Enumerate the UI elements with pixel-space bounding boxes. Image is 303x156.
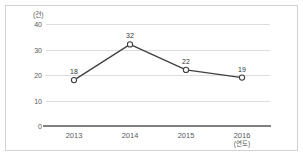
data-label-2015: 22 bbox=[182, 58, 190, 65]
chart-figure: (건) 40 30 20 10 0 18 32 22 19 2013 2014 … bbox=[0, 0, 303, 156]
data-point-2014 bbox=[127, 42, 132, 47]
data-point-2015 bbox=[183, 67, 188, 72]
data-label-2014: 32 bbox=[126, 32, 134, 39]
x-tick-2016: 2016 (연도) bbox=[234, 131, 251, 149]
x-tick-2015: 2015 bbox=[178, 131, 195, 140]
series-line-chart bbox=[0, 0, 303, 156]
x-tick-2014: 2014 bbox=[122, 131, 139, 140]
x-axis-unit-label: (연도) bbox=[234, 140, 251, 148]
series-polyline bbox=[74, 44, 242, 80]
data-label-2016: 19 bbox=[238, 66, 246, 73]
x-tick-2016-text: 2016 bbox=[234, 131, 251, 140]
x-tick-2013: 2013 bbox=[66, 131, 83, 140]
data-point-2016 bbox=[239, 75, 244, 80]
data-point-2013 bbox=[71, 78, 76, 83]
x-tick-2015-text: 2015 bbox=[178, 131, 195, 140]
x-tick-2013-text: 2013 bbox=[66, 131, 83, 140]
x-tick-2014-text: 2014 bbox=[122, 131, 139, 140]
data-label-2013: 18 bbox=[70, 68, 78, 75]
